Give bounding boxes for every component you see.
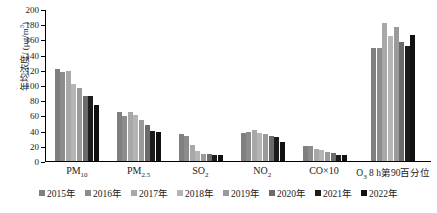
legend-swatch-icon (361, 190, 367, 196)
bar (190, 145, 195, 161)
bar (212, 155, 217, 161)
y-axis-title-exponent: 3 (18, 25, 25, 28)
legend-swatch-icon (315, 190, 321, 196)
legend-label: 2022年 (369, 186, 398, 200)
bar (201, 154, 206, 161)
legend-item[interactable]: 2015年 (39, 186, 76, 200)
bar (257, 133, 262, 161)
bar (122, 116, 127, 161)
x-axis-label: CO×10 (293, 165, 355, 181)
legend-swatch-icon (223, 190, 229, 196)
bar (269, 136, 274, 161)
bar (246, 132, 251, 161)
bar (94, 105, 99, 161)
y-tick-mark (41, 116, 45, 117)
x-axis-label: PM10 (46, 165, 108, 181)
y-tick-mark (41, 86, 45, 87)
chart-legend: 2015年2016年2017年2018年2019年2020年2021年2022年 (0, 186, 437, 200)
legend-item[interactable]: 2022年 (361, 186, 398, 200)
bar (117, 112, 122, 161)
y-tick-mark (41, 25, 45, 26)
bar-groups (46, 10, 431, 161)
bar-chart: 年均浓度/ (μg/m3) 02040608010012014016018020… (0, 0, 437, 213)
bar (410, 35, 415, 161)
legend-label: 2015年 (47, 186, 76, 200)
y-tick-label: 200 (26, 6, 40, 15)
legend-item[interactable]: 2020年 (269, 186, 306, 200)
y-tick-label: 60 (30, 112, 39, 121)
legend-label: 2018年 (185, 186, 214, 200)
x-axis-line (45, 161, 431, 162)
y-tick-mark (41, 162, 45, 163)
bar (371, 48, 376, 161)
bar (325, 152, 330, 161)
y-tick-mark (41, 132, 45, 133)
bar (88, 96, 93, 161)
bar (66, 71, 71, 161)
legend-swatch-icon (177, 190, 183, 196)
y-tick-label: 140 (26, 51, 40, 60)
y-tick-mark (41, 147, 45, 148)
plot-area: 020406080100120140160180200 (45, 10, 431, 162)
legend-item[interactable]: 2016年 (85, 186, 122, 200)
y-tick-mark (41, 101, 45, 102)
bar (319, 150, 324, 161)
bar (179, 134, 184, 161)
bar (342, 155, 347, 161)
legend-swatch-icon (39, 190, 45, 196)
bar (382, 23, 387, 161)
bar (77, 88, 82, 161)
bar-group (108, 10, 170, 161)
bar (405, 46, 410, 161)
bar (139, 120, 144, 161)
legend-item[interactable]: 2021年 (315, 186, 352, 200)
bar (331, 153, 336, 161)
legend-swatch-icon (131, 190, 137, 196)
bar (184, 136, 189, 161)
x-axis-label: O3 8 h第90百分位 (355, 165, 432, 181)
y-tick-mark (41, 56, 45, 57)
x-axis-label: PM2.5 (108, 165, 170, 181)
bar (377, 48, 382, 161)
y-tick-mark (41, 71, 45, 72)
x-axis-label: NO2 (231, 165, 293, 181)
legend-swatch-icon (269, 190, 275, 196)
bar (388, 36, 393, 161)
bar (71, 84, 76, 161)
bar (394, 27, 399, 161)
legend-label: 2020年 (277, 186, 306, 200)
legend-item[interactable]: 2019年 (223, 186, 260, 200)
bar-group (232, 10, 294, 161)
bar (314, 149, 319, 161)
bar (55, 69, 60, 161)
bar (150, 131, 155, 161)
x-axis-label: SO2 (170, 165, 232, 181)
bar (156, 132, 161, 161)
bar-group (356, 10, 431, 161)
y-tick-mark (41, 40, 45, 41)
bar (274, 137, 279, 161)
y-tick-label: 160 (26, 36, 40, 45)
bar (145, 125, 150, 161)
y-tick-label: 180 (26, 21, 40, 30)
bar (280, 142, 285, 161)
legend-item[interactable]: 2017年 (131, 186, 168, 200)
bar-group (46, 10, 108, 161)
y-tick-label: 20 (30, 142, 39, 151)
bar-group (170, 10, 232, 161)
legend-item[interactable]: 2018年 (177, 186, 214, 200)
y-tick-label: 120 (26, 66, 40, 75)
bar (83, 96, 88, 161)
y-tick-label: 40 (30, 127, 39, 136)
bar (128, 112, 133, 161)
bar (207, 154, 212, 161)
bar (218, 155, 223, 161)
bar (241, 133, 246, 161)
y-tick-label: 80 (30, 97, 39, 106)
bar-group (294, 10, 356, 161)
bar (308, 146, 313, 161)
legend-label: 2019年 (231, 186, 260, 200)
legend-label: 2017年 (139, 186, 168, 200)
legend-swatch-icon (85, 190, 91, 196)
bar (263, 134, 268, 161)
